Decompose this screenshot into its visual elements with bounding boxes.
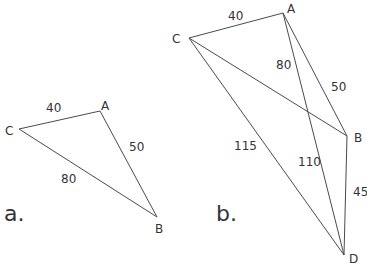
vertex-b-A: A (287, 2, 296, 16)
edge-b-ad (283, 13, 344, 255)
vertex-b-B: B (354, 131, 362, 145)
edge-label-a-ca: 40 (46, 101, 61, 115)
vertex-a-A: A (101, 99, 110, 113)
edge-label-b-ca: 40 (228, 9, 243, 23)
edge-b-ab (283, 13, 347, 136)
edge-label-b-cd: 115 (234, 139, 257, 153)
edge-label-a-cb: 80 (61, 172, 76, 186)
panel-label-b: b. (216, 201, 237, 226)
edge-label-b-bd: 45 (353, 185, 367, 199)
vertex-a-B: B (155, 222, 163, 236)
edge-b-cb (189, 38, 347, 136)
edge-a-ab (100, 111, 157, 217)
edge-label-b-ab: 50 (331, 80, 346, 94)
vertex-b-D: D (349, 252, 358, 266)
vertex-a-C: C (5, 124, 13, 138)
edge-b-cd (189, 38, 344, 255)
panel-label-a: a. (4, 201, 24, 226)
edge-label-a-ab: 50 (129, 140, 144, 154)
diagram-b: C A B D 40 50 80 115 110 45 b. (172, 2, 367, 266)
edge-label-b-ad: 110 (298, 155, 321, 169)
triangle-diagrams: C A B 40 50 80 a. C A B D 40 50 80 115 1… (0, 0, 367, 266)
diagram-a: C A B 40 50 80 a. (4, 99, 163, 236)
edge-label-b-cb: 80 (276, 58, 291, 72)
edge-b-bd (344, 136, 347, 255)
vertex-b-C: C (172, 32, 180, 46)
